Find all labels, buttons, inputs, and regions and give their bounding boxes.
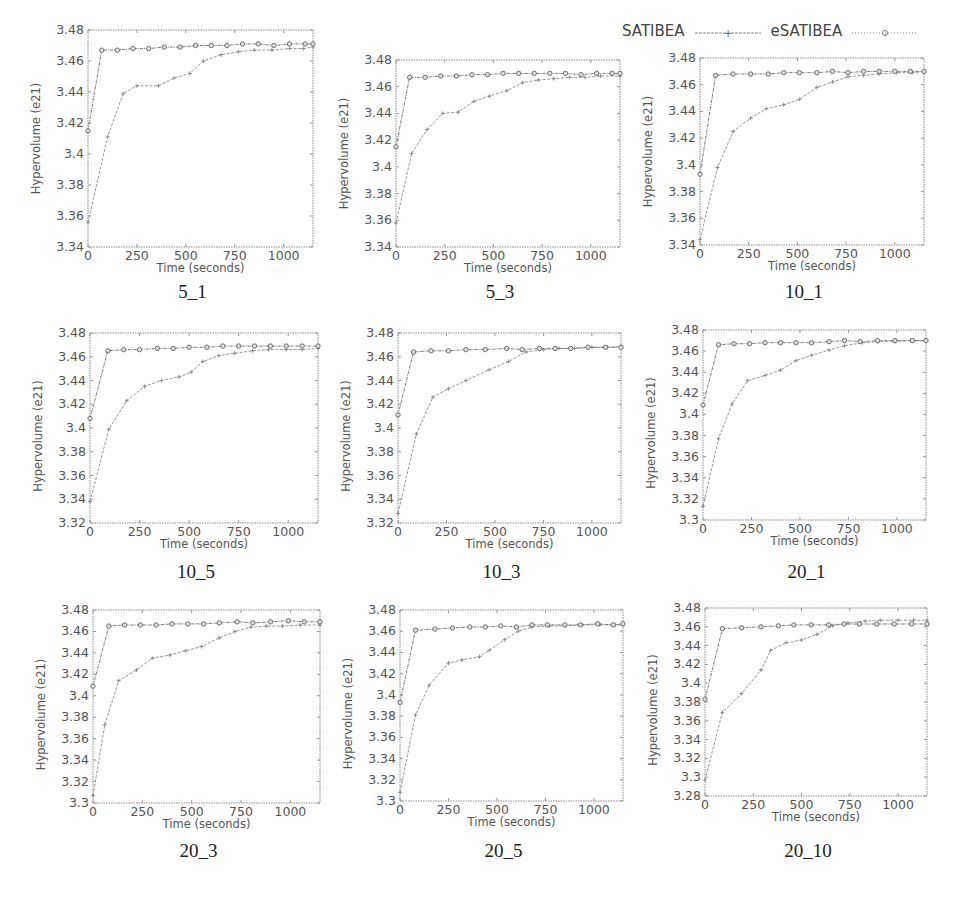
chart-panel-5-3: 3.343.363.383.43.423.443.463.48025050075… (337, 52, 622, 302)
data-point-esatibea (747, 342, 751, 346)
data-point-esatibea (106, 349, 110, 353)
data-point-esatibea (413, 628, 417, 632)
data-point-satibea (150, 656, 154, 660)
series-line-satibea (700, 71, 924, 239)
chart-panel-10-1: 3.343.363.383.43.423.443.463.48025050075… (641, 50, 926, 302)
data-point-satibea (784, 641, 788, 645)
data-point-esatibea (514, 625, 518, 629)
data-point-esatibea (468, 625, 472, 629)
data-point-esatibea (302, 620, 306, 624)
data-point-esatibea (398, 700, 402, 704)
data-point-satibea (414, 432, 418, 436)
x-axis-label: Time (seconds) (771, 810, 860, 824)
data-point-esatibea (122, 347, 126, 351)
y-tick-label: 3.44 (668, 103, 696, 118)
y-tick-label: 3.36 (366, 468, 394, 483)
x-tick-label: 250 (437, 802, 461, 817)
data-point-esatibea (530, 623, 534, 627)
y-tick-label: 3.34 (668, 237, 696, 252)
y-tick-label: 3.44 (673, 638, 701, 653)
data-point-esatibea (186, 622, 190, 626)
y-tick-label: 3.38 (58, 444, 86, 459)
data-point-satibea (414, 713, 418, 717)
y-tick-label: 3.38 (61, 709, 89, 724)
data-point-satibea (536, 78, 540, 82)
data-point-satibea (219, 53, 223, 57)
data-point-satibea (487, 368, 491, 372)
data-point-esatibea (107, 624, 111, 628)
data-point-esatibea (778, 340, 782, 344)
y-tick-label: 3.42 (366, 396, 394, 411)
data-point-satibea (524, 350, 528, 354)
data-point-esatibea (154, 623, 158, 627)
y-tick-label: 3.48 (366, 325, 394, 340)
series-line-esatibea (398, 347, 621, 415)
y-tick-label: 3.4 (676, 157, 696, 172)
data-point-esatibea (501, 71, 505, 75)
series-line-esatibea (705, 624, 927, 699)
data-point-satibea (507, 360, 511, 364)
chart-panel-20-10: 3.283.33.323.343.363.383.43.423.443.463.… (646, 600, 929, 861)
data-point-esatibea (209, 43, 213, 47)
x-axis-label: Time (seconds) (156, 261, 245, 275)
data-point-satibea (478, 655, 482, 659)
data-point-esatibea (86, 129, 90, 133)
data-point-esatibea (797, 70, 801, 74)
data-point-satibea (521, 81, 525, 85)
panel-title: 20_1 (788, 561, 826, 582)
data-point-satibea (879, 618, 883, 622)
y-tick-label: 3.36 (58, 468, 86, 483)
data-point-esatibea (499, 624, 503, 628)
data-point-satibea (270, 48, 274, 52)
data-point-esatibea (170, 622, 174, 626)
x-tick-label: 1000 (881, 521, 913, 536)
data-point-esatibea (193, 43, 197, 47)
data-point-esatibea (115, 48, 119, 52)
data-point-esatibea (303, 42, 307, 46)
data-point-esatibea (924, 338, 928, 342)
x-axis-label: Time (seconds) (467, 815, 556, 829)
data-point-esatibea (236, 344, 240, 348)
x-tick-label: 0 (84, 248, 92, 263)
y-tick-label: 3.46 (58, 349, 86, 364)
data-point-satibea (863, 619, 867, 623)
data-point-esatibea (910, 338, 914, 342)
data-point-esatibea (579, 72, 583, 76)
data-point-esatibea (311, 42, 315, 46)
data-point-esatibea (892, 622, 896, 626)
data-point-satibea (200, 644, 204, 648)
data-point-satibea (298, 623, 302, 627)
x-tick-label: 250 (740, 521, 764, 536)
data-point-esatibea (545, 623, 549, 627)
data-point-satibea (843, 344, 847, 348)
y-tick-label: 3.36 (364, 212, 392, 227)
y-tick-label: 3.4 (374, 420, 394, 435)
data-point-esatibea (603, 345, 607, 349)
x-tick-label: 250 (125, 248, 149, 263)
x-tick-label: 0 (394, 524, 402, 539)
data-point-satibea (251, 349, 255, 353)
data-point-satibea (135, 84, 139, 88)
series-line-esatibea (90, 346, 318, 418)
data-point-esatibea (433, 627, 437, 631)
data-point-satibea (91, 793, 95, 797)
data-point-esatibea (619, 345, 623, 349)
data-point-esatibea (137, 347, 141, 351)
x-tick-label: 0 (89, 804, 97, 819)
panel-title: 5_3 (486, 281, 515, 302)
data-point-esatibea (439, 74, 443, 78)
series-line-satibea (90, 348, 318, 501)
data-point-esatibea (776, 624, 780, 628)
x-axis-label: Time (seconds) (463, 261, 552, 275)
series-line-esatibea (700, 71, 924, 174)
y-tick-label: 3.46 (671, 343, 699, 358)
panel-title: 10_3 (483, 561, 521, 582)
data-point-esatibea (272, 43, 276, 47)
y-tick-label: 3.28 (673, 788, 701, 803)
data-point-esatibea (842, 338, 846, 342)
data-point-satibea (159, 379, 163, 383)
data-point-esatibea (594, 71, 598, 75)
y-tick-label: 3.32 (61, 774, 89, 789)
series-line-satibea (400, 625, 623, 793)
y-tick-label: 3.44 (368, 644, 396, 659)
